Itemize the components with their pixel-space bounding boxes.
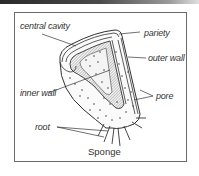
label-pariety: pariety [144, 28, 170, 38]
label-root: root [35, 122, 50, 132]
label-outer-wall: outer wall [148, 53, 185, 63]
label-pore: pore [156, 91, 173, 101]
label-central-cavity: central cavity [20, 21, 70, 31]
diagram-caption: Sponge [88, 146, 121, 157]
label-inner-wall: inner wall [20, 88, 56, 98]
